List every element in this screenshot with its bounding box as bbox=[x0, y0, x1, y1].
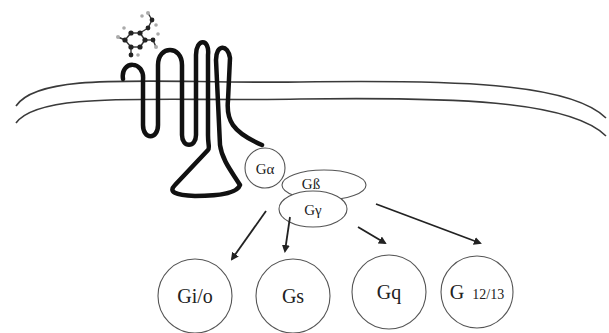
family-gs-label: Gs bbox=[282, 285, 304, 307]
family-g1213-sub: 12/13 bbox=[472, 287, 504, 302]
arrow-to-gio bbox=[232, 211, 266, 259]
family-gs: Gs bbox=[256, 259, 330, 333]
family-gio: Gi/o bbox=[158, 259, 232, 333]
arrow-to-g1213 bbox=[376, 204, 480, 243]
arrow-to-gq bbox=[358, 227, 385, 243]
g-gamma-label: Gγ bbox=[304, 202, 322, 218]
family-gq-label: Gq bbox=[377, 281, 401, 304]
g-alpha-label: Gα bbox=[256, 161, 275, 177]
family-g1213-main: G bbox=[450, 281, 464, 303]
membrane-inner-leaflet bbox=[16, 99, 606, 136]
gpcr-diagram: Gα Gß Gγ Gi/o Gs Gq G bbox=[0, 0, 609, 333]
g-protein-families: Gi/o Gs Gq G 12/13 bbox=[158, 255, 513, 333]
signaling-arrows bbox=[232, 204, 480, 259]
family-gio-label: Gi/o bbox=[177, 285, 213, 307]
receptor-path bbox=[123, 42, 262, 196]
family-gq: Gq bbox=[352, 255, 426, 329]
arrow-to-gs bbox=[285, 217, 290, 251]
g-beta-label: Gß bbox=[302, 176, 320, 192]
family-g1213: G 12/13 bbox=[441, 256, 513, 328]
ligand-molecule-icon bbox=[116, 11, 160, 57]
plasma-membrane bbox=[16, 81, 606, 136]
